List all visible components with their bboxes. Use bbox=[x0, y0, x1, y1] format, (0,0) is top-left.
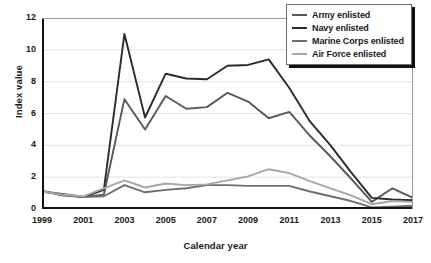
x-tick-label: 1999 bbox=[22, 215, 62, 225]
legend-item: Marine Corps enlisted bbox=[292, 34, 404, 47]
legend-swatch-line-icon bbox=[292, 14, 307, 16]
y-tick-label: 8 bbox=[10, 76, 36, 86]
x-tick-label: 2001 bbox=[63, 215, 103, 225]
legend-item: Air Force enlisted bbox=[292, 47, 404, 60]
x-tick-label: 2003 bbox=[104, 215, 144, 225]
y-tick-label: 6 bbox=[10, 108, 36, 118]
y-tick-label: 4 bbox=[10, 139, 36, 149]
x-tick-label: 2017 bbox=[393, 215, 431, 225]
x-tick-label: 2007 bbox=[187, 215, 227, 225]
y-tick-label: 10 bbox=[10, 44, 36, 54]
y-tick-label: 0 bbox=[10, 203, 36, 213]
x-tick-label: 2011 bbox=[269, 215, 309, 225]
x-tick-label: 2009 bbox=[228, 215, 268, 225]
x-axis-title: Calendar year bbox=[0, 240, 431, 251]
x-tick-label: 2005 bbox=[146, 215, 186, 225]
legend-swatch-line-icon bbox=[292, 40, 307, 42]
legend: Army enlistedNavy enlistedMarine Corps e… bbox=[286, 4, 412, 65]
legend-item-label: Air Force enlisted bbox=[312, 49, 386, 59]
y-tick-label: 2 bbox=[10, 171, 36, 181]
legend-item: Navy enlisted bbox=[292, 21, 404, 34]
line-chart: Index value Calendar year 024681012 1999… bbox=[0, 0, 431, 263]
legend-item-label: Army enlisted bbox=[312, 10, 370, 20]
legend-item-label: Navy enlisted bbox=[312, 23, 369, 33]
series-line-2 bbox=[42, 185, 413, 207]
legend-item: Army enlisted bbox=[292, 8, 404, 21]
x-tick-label: 2013 bbox=[311, 215, 351, 225]
y-axis-title: Index value bbox=[13, 52, 24, 132]
legend-item-label: Marine Corps enlisted bbox=[312, 36, 404, 46]
x-tick-label: 2015 bbox=[352, 215, 392, 225]
y-tick-label: 12 bbox=[10, 12, 36, 22]
legend-swatch-line-icon bbox=[292, 27, 307, 29]
legend-swatch-line-icon bbox=[292, 53, 307, 55]
